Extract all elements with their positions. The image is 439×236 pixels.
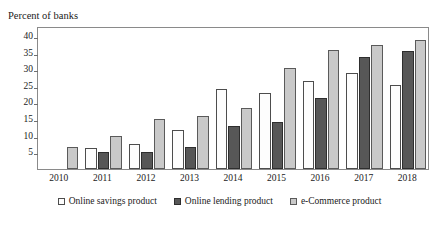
x-tick-label: 2013 bbox=[168, 173, 212, 184]
bar-group bbox=[129, 28, 166, 169]
y-axis-tick bbox=[34, 154, 38, 155]
y-axis-tick bbox=[34, 38, 38, 39]
bar bbox=[98, 152, 110, 169]
legend-item[interactable]: Online lending product bbox=[174, 196, 273, 207]
bar-group bbox=[42, 28, 79, 169]
bar bbox=[197, 116, 209, 169]
x-axis-labels: 201020112012201320142015201620172018 bbox=[37, 173, 429, 187]
bar-group bbox=[390, 28, 427, 169]
bar bbox=[303, 81, 315, 169]
bars-container bbox=[38, 28, 428, 169]
y-tick-label: 5 bbox=[7, 148, 33, 158]
bar-chart-figure: Percent of banks 510152025303540 2010201… bbox=[0, 0, 439, 236]
legend-swatch-icon bbox=[290, 198, 297, 205]
bar bbox=[359, 57, 371, 169]
x-tick-label: 2016 bbox=[298, 173, 342, 184]
bar bbox=[402, 51, 414, 169]
y-tick-label: 40 bbox=[7, 32, 33, 42]
legend-label: e-Commerce product bbox=[301, 196, 381, 207]
legend-item[interactable]: Online savings product bbox=[58, 196, 157, 207]
x-tick-label: 2012 bbox=[124, 173, 168, 184]
bar bbox=[129, 144, 141, 169]
bar-group bbox=[303, 28, 340, 169]
y-axis-tick bbox=[34, 138, 38, 139]
bar bbox=[172, 130, 184, 169]
legend-label: Online savings product bbox=[69, 196, 157, 207]
x-tick-label: 2017 bbox=[342, 173, 386, 184]
x-tick-label: 2018 bbox=[385, 173, 429, 184]
x-tick-label: 2014 bbox=[211, 173, 255, 184]
legend-item[interactable]: e-Commerce product bbox=[290, 196, 381, 207]
y-tick-label: 30 bbox=[7, 65, 33, 75]
bar-group bbox=[216, 28, 253, 169]
bar bbox=[390, 85, 402, 169]
bar bbox=[284, 68, 296, 169]
x-tick-label: 2010 bbox=[37, 173, 81, 184]
y-axis-tick bbox=[34, 88, 38, 89]
chart-title: Percent of banks bbox=[8, 10, 78, 22]
bar bbox=[415, 40, 427, 169]
bar bbox=[141, 152, 153, 169]
bar bbox=[259, 93, 271, 169]
legend-label: Online lending product bbox=[185, 196, 273, 207]
y-axis-labels: 510152025303540 bbox=[0, 27, 33, 170]
bar-group bbox=[346, 28, 383, 169]
bar-group bbox=[172, 28, 209, 169]
bar bbox=[85, 148, 97, 169]
bar bbox=[328, 50, 340, 169]
x-tick-label: 2015 bbox=[255, 173, 299, 184]
bar bbox=[346, 73, 358, 169]
bar-group bbox=[85, 28, 122, 169]
plot-area bbox=[37, 27, 429, 170]
legend-swatch-icon bbox=[58, 198, 65, 205]
y-axis-tick bbox=[34, 71, 38, 72]
y-tick-label: 10 bbox=[7, 132, 33, 142]
y-tick-label: 20 bbox=[7, 98, 33, 108]
bar bbox=[110, 136, 122, 169]
y-tick-label: 15 bbox=[7, 115, 33, 125]
y-tick-label: 35 bbox=[7, 49, 33, 59]
y-tick-label: 25 bbox=[7, 82, 33, 92]
bar bbox=[154, 119, 166, 169]
legend-swatch-icon bbox=[174, 198, 181, 205]
bar bbox=[272, 122, 284, 169]
bar bbox=[315, 98, 327, 170]
bar bbox=[67, 147, 79, 169]
bar-group bbox=[259, 28, 296, 169]
bar bbox=[228, 126, 240, 169]
bar bbox=[371, 45, 383, 169]
x-tick-label: 2011 bbox=[81, 173, 125, 184]
chart-legend: Online savings productOnline lending pro… bbox=[0, 196, 439, 207]
bar bbox=[241, 108, 253, 169]
bar bbox=[216, 89, 228, 169]
y-axis-tick bbox=[34, 121, 38, 122]
bar bbox=[185, 147, 197, 169]
y-axis-tick bbox=[34, 104, 38, 105]
y-axis-tick bbox=[34, 55, 38, 56]
